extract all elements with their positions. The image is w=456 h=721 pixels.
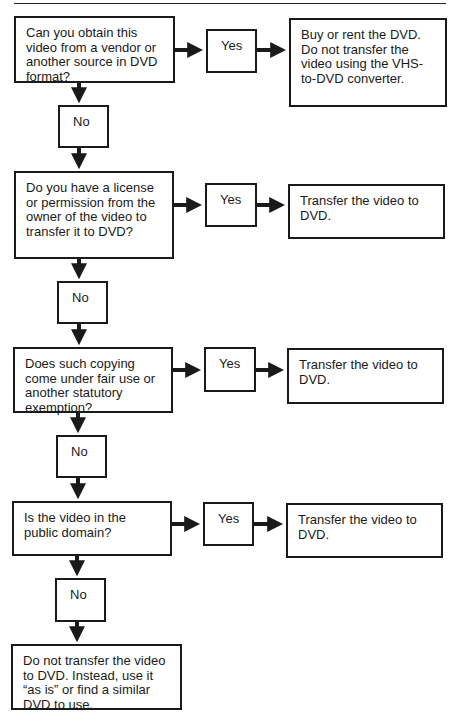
outcome-box-3: Transfer the video to DVD. (287, 348, 444, 404)
no-box-3: No (56, 435, 107, 478)
question-box-3: Does such copying come under fair use or… (13, 347, 173, 413)
outcome-box-4: Transfer the video to DVD. (286, 503, 443, 558)
outcome-box-1: Buy or rent the DVD. Do not transfer the… (289, 18, 447, 107)
outcome-box-2: Transfer the video to DVD. (288, 184, 445, 239)
final-outcome-box: Do not transfer the video to DVD. Instea… (11, 644, 182, 710)
no-box-2: No (57, 281, 108, 324)
no-box-4: No (55, 578, 106, 622)
question-box-2: Do you have a license or permission from… (14, 171, 174, 259)
question-box-1: Can you obtain this video from a vendor … (14, 16, 175, 83)
yes-box-2: Yes (205, 183, 257, 227)
yes-box-4: Yes (203, 502, 254, 546)
question-box-4: Is the video in the public domain? (12, 501, 172, 556)
yes-box-3: Yes (204, 347, 256, 392)
no-box-1: No (58, 105, 109, 148)
yes-box-1: Yes (206, 29, 257, 73)
